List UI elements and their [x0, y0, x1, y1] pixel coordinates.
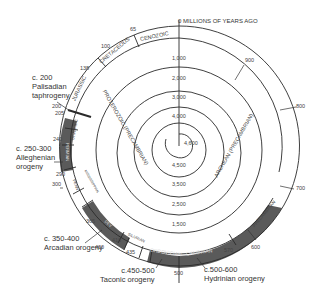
axis-tick-4500: 4,500 [172, 163, 186, 169]
axis-tick-4000: 4,000 [172, 114, 186, 120]
orogeny-palisadian: c. 200 Palisadian taphrogeny [32, 73, 70, 100]
axis-tick-1000: 1,000 [172, 56, 186, 62]
tick-570: 570 [224, 248, 233, 254]
axis-tick-2000: 2,000 [172, 76, 186, 82]
tick-365: 365 [86, 219, 95, 225]
tick-205: 205 [55, 111, 64, 117]
axis-tick-2500: 2,500 [172, 202, 186, 208]
orogeny-hydrinian: c.500-600 Hydrinian orogeny [204, 265, 265, 283]
geologic-time-spiral: 0 MILLIONS OF YEARS AGO 4,600 1,000 2,00… [0, 0, 324, 293]
axis-tick-1500: 1,500 [172, 222, 186, 228]
tick-500: 500 [174, 271, 183, 277]
tick-600: 600 [251, 245, 260, 251]
tick-900: 900 [245, 58, 254, 64]
tick-300: 300 [52, 182, 61, 188]
tick-800: 800 [296, 104, 305, 110]
tick-410: 410 [112, 238, 121, 244]
axis-tick-3000: 3,000 [172, 95, 186, 101]
tick-100: 100 [101, 44, 110, 50]
tick-435: 435 [126, 250, 135, 256]
orogeny-taconic: c.450-500 Taconic orogeny [100, 266, 155, 284]
era-permian: PERMIAN [65, 143, 69, 161]
center-label: 4,600 [184, 141, 198, 147]
tick-240: 240 [53, 137, 62, 143]
tick-700: 700 [296, 186, 305, 192]
tick-200: 200 [52, 104, 61, 110]
diagram-title: 0 MILLIONS OF YEARS AGO [178, 18, 258, 24]
axis-tick-3500: 3,500 [172, 182, 186, 188]
tick-65: 65 [130, 27, 136, 33]
tick-138: 138 [80, 66, 89, 72]
tick-290: 290 [56, 172, 65, 178]
orogeny-arcadian: c. 350-400 Arcadian orogeny [44, 234, 103, 252]
orogeny-alleghenian: c. 250-300 Alleghenian orogeny [16, 144, 55, 171]
